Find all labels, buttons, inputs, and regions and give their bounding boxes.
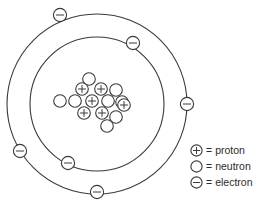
neutron-symbol-icon [189,159,204,174]
nucleus-neutron-3-body [110,84,123,97]
nucleus-proton-1 [76,83,89,96]
legend-equals-neutron: = [206,161,212,172]
legend: = proton = neutron = electron [189,143,269,191]
nucleus-proton-8 [78,107,91,120]
legend-item-electron: = electron [189,175,269,190]
legend-equals-proton: = [206,145,212,156]
nucleus-neutron-13 [54,95,67,108]
nucleus-proton-10 [118,99,131,112]
nucleus-proton-9 [96,107,109,120]
electron-3 [13,144,26,157]
nucleus-neutron-12-body [101,120,114,133]
nucleus-proton-5 [86,95,99,108]
legend-label-proton: proton [215,145,245,156]
electron-4 [180,97,193,110]
legend-equals-electron: = [206,177,212,188]
nucleus-neutron-6 [102,95,115,108]
nucleus-neutron-6-body [102,95,115,108]
nucleus-neutron-12 [101,120,114,133]
electron-0 [126,36,139,49]
electron-symbol-icon [189,175,204,190]
nucleus-neutron-4-body [69,95,82,108]
legend-item-proton: = proton [189,143,269,158]
legend-item-neutron: = neutron [189,159,269,174]
nucleus-neutron-4 [69,95,82,108]
electron-2 [53,8,66,21]
nucleus-neutron-13-body [54,95,67,108]
nucleus-group [54,73,131,133]
atom-diagram: = proton = neutron = electron [0,0,273,213]
legend-label-electron: electron [215,177,252,188]
proton-symbol-icon [189,143,204,158]
legend-label-neutron: neutron [215,161,251,172]
nucleus-neutron-3 [110,84,123,97]
electron-1 [61,156,74,169]
electron-5 [90,185,103,198]
nucleus-proton-2 [95,83,108,96]
